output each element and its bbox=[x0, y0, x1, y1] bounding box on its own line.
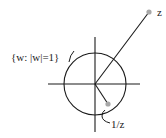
z-label: z bbox=[157, 6, 162, 18]
circle-label: {w: |w|=1} bbox=[11, 51, 59, 63]
point-inverse bbox=[105, 101, 110, 106]
ray-to-z bbox=[95, 12, 149, 84]
circle-label-leader bbox=[69, 51, 74, 62]
inverse-label: 1/z bbox=[111, 118, 125, 130]
point-z bbox=[146, 9, 151, 14]
ray-to-inverse bbox=[95, 84, 108, 104]
inversion-diagram: {w: |w|=1} z 1/z bbox=[0, 0, 166, 138]
